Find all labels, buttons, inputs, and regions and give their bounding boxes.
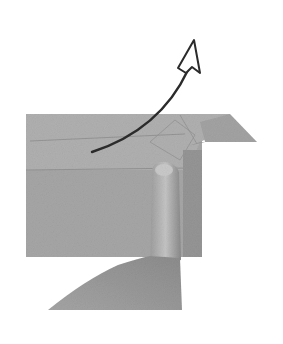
hand [48, 256, 182, 310]
illustration-canvas [0, 0, 283, 344]
finger [150, 162, 181, 265]
paper [26, 114, 257, 257]
origami-fold-illustration [0, 0, 283, 344]
